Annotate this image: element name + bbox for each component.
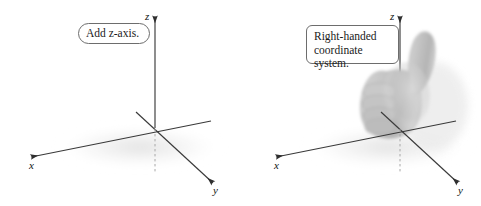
y-axis-label: y [213,184,218,196]
z-axis-label: z [145,10,149,22]
coordinate-system-figure [0,0,481,206]
x-axis-label: x [274,159,279,171]
callout-right-handed-system: Right-handed coordinate system. [306,25,399,64]
callout-add-z-axis: Add z-axis. [78,23,150,44]
y-axis-label: y [458,184,463,196]
z-axis-label: z [390,10,394,22]
x-axis-label: x [29,159,34,171]
